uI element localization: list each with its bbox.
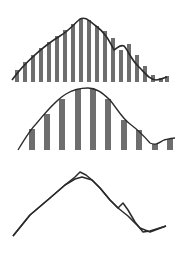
bar bbox=[59, 99, 65, 150]
reconstructed-curve bbox=[13, 177, 166, 236]
sparse-bar-panel bbox=[29, 89, 173, 150]
bar bbox=[39, 48, 43, 82]
dense-bar-panel bbox=[15, 19, 169, 82]
bar bbox=[167, 139, 173, 150]
bar bbox=[71, 24, 75, 82]
bar bbox=[55, 36, 59, 82]
bar bbox=[44, 114, 50, 150]
bar bbox=[90, 89, 96, 150]
bar bbox=[79, 19, 83, 82]
bar bbox=[63, 30, 67, 82]
bar bbox=[95, 26, 99, 82]
reconstruction-panel bbox=[13, 172, 166, 236]
original-curve bbox=[13, 172, 166, 236]
bar bbox=[75, 89, 81, 150]
bar bbox=[103, 31, 107, 82]
smooth-curve-middle bbox=[18, 88, 175, 150]
bar bbox=[87, 20, 91, 82]
bar bbox=[119, 50, 123, 82]
bar bbox=[121, 120, 127, 150]
sampling-diagram bbox=[0, 0, 189, 254]
bar bbox=[105, 99, 111, 150]
bar bbox=[47, 42, 51, 82]
bar bbox=[135, 55, 139, 82]
bar bbox=[152, 144, 158, 150]
